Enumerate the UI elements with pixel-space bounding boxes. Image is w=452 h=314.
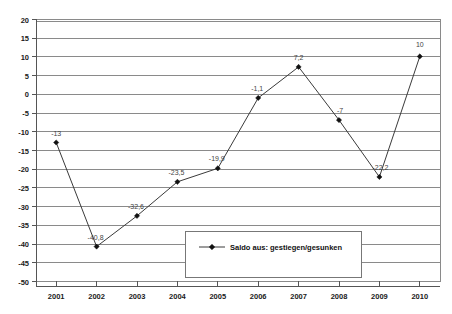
- series-line-saldo: [56, 56, 420, 246]
- x-axis-tick-label: 2010: [411, 292, 428, 301]
- data-point-label: -40,8: [88, 234, 104, 241]
- data-point-label: 7,2: [294, 54, 304, 61]
- x-axis-tick-label: 2003: [129, 292, 146, 301]
- y-axis-tick-label: 20: [21, 16, 29, 25]
- y-axis-tick-label: -15: [18, 147, 29, 156]
- x-axis-tick-label: 2002: [88, 292, 105, 301]
- y-axis-tick-label: -40: [18, 240, 29, 249]
- x-axis-tick-label: 2005: [209, 292, 226, 301]
- data-point-label: -22,2: [372, 164, 388, 171]
- data-point-label: -13: [51, 130, 61, 137]
- data-point-label: -32,6: [128, 203, 144, 210]
- data-point-label: -23,5: [168, 169, 184, 176]
- line-chart: 20151050-5-10-15-20-25-30-35-40-45-50200…: [0, 0, 452, 314]
- y-axis-tick-label: 10: [21, 53, 29, 62]
- data-point-label: -19,9: [209, 155, 225, 162]
- x-axis-tick-label: 2008: [331, 292, 348, 301]
- y-axis-tick-label: -5: [22, 109, 29, 118]
- chart-canvas: 20151050-5-10-15-20-25-30-35-40-45-50200…: [0, 0, 452, 314]
- y-axis-tick-label: -30: [18, 203, 29, 212]
- y-axis-tick-label: 0: [25, 90, 29, 99]
- y-axis-tick-label: 15: [21, 34, 29, 43]
- x-axis-tick-label: 2009: [371, 292, 388, 301]
- data-point-marker[interactable]: [54, 140, 59, 145]
- x-axis-tick-label: 2006: [250, 292, 267, 301]
- y-axis-tick-label: 5: [25, 72, 29, 81]
- legend-box: [186, 232, 362, 278]
- y-axis-tick-label: -45: [18, 259, 29, 268]
- y-axis-tick-label: -50: [18, 278, 29, 287]
- y-axis-tick-label: -20: [18, 165, 29, 174]
- x-axis-tick-label: 2004: [169, 292, 187, 301]
- y-axis-tick-label: -35: [18, 221, 29, 230]
- data-point-marker[interactable]: [215, 166, 220, 171]
- legend-label-saldo: Saldo aus: gestiegen/gesunken: [230, 243, 343, 252]
- data-point-label: 10: [416, 41, 424, 48]
- x-axis-tick-label: 2007: [290, 292, 307, 301]
- data-point-label: -1,1: [251, 85, 263, 92]
- y-axis-tick-label: -10: [18, 128, 29, 137]
- x-axis-tick-label: 2001: [48, 292, 65, 301]
- data-point-marker[interactable]: [417, 54, 422, 59]
- data-point-label: -7: [337, 107, 343, 114]
- y-axis-tick-label: -25: [18, 184, 29, 193]
